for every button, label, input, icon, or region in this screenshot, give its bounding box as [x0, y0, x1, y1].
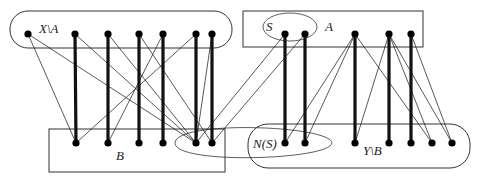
vertex-b9	[351, 139, 358, 146]
vertex-t8	[281, 30, 288, 37]
edge	[28, 34, 196, 143]
edge	[28, 34, 76, 143]
label-s: S	[266, 19, 273, 34]
vertex-t9	[301, 30, 308, 37]
vertex-b4	[159, 139, 166, 146]
vertex-t6	[192, 30, 199, 37]
label-n-s: N(S)	[252, 136, 277, 151]
edge	[139, 34, 212, 143]
matching-edge	[75, 34, 76, 143]
vertex-b7	[281, 139, 288, 146]
vertex-b11	[407, 139, 414, 146]
vertex-t2	[71, 30, 78, 37]
label-b: B	[116, 148, 124, 163]
vertex-t3	[104, 30, 111, 37]
edge	[411, 34, 452, 143]
vertex-t11	[385, 30, 392, 37]
vertex-t7	[208, 30, 215, 37]
vertex-t5	[159, 30, 166, 37]
matching-edges	[75, 34, 411, 143]
vertex-b12	[428, 139, 435, 146]
vertex-t12	[407, 30, 414, 37]
vertex-b10	[385, 139, 392, 146]
vertex-b5	[192, 139, 199, 146]
label-x-minus-a: X\A	[38, 21, 59, 36]
vertex-b6	[208, 139, 215, 146]
vertex-t10	[351, 30, 358, 37]
label-y-minus-b: Y\B	[363, 143, 382, 158]
vertex-t4	[135, 30, 142, 37]
vertex-b8	[301, 139, 308, 146]
vertex-b1	[72, 139, 79, 146]
label-a: A	[324, 19, 333, 34]
bipartite-graph-diagram: X\A S A B N(S) Y\B	[0, 0, 482, 182]
edge	[108, 34, 196, 143]
vertex-t1	[24, 30, 31, 37]
vertex-b13	[448, 139, 455, 146]
vertex-b2	[104, 139, 111, 146]
edge	[305, 34, 355, 143]
vertex-b3	[135, 139, 142, 146]
edge	[285, 34, 355, 143]
edge	[355, 34, 389, 143]
